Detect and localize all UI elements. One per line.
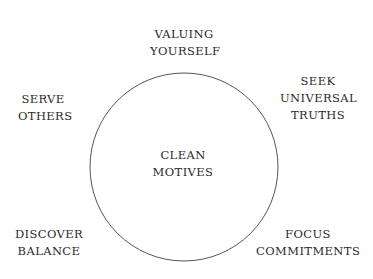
- node-focus-commitments: FOCUS COMMITMENTS: [256, 226, 360, 260]
- node-serve-others: SERVE OTHERS: [18, 91, 68, 125]
- node-label-line: YOURSELF: [150, 43, 218, 60]
- node-label-line: FOCUS: [256, 226, 360, 243]
- node-label-line: BALANCE: [14, 243, 84, 260]
- node-label-line: UNIVERSAL: [280, 90, 356, 107]
- center-label-line: MOTIVES: [148, 164, 218, 181]
- node-label-line: SERVE: [18, 91, 68, 108]
- node-label-line: SEEK: [280, 73, 356, 90]
- node-discover-balance: DISCOVER BALANCE: [14, 226, 84, 260]
- node-label-line: TRUTHS: [280, 107, 356, 124]
- node-valuing-yourself: VALUING YOURSELF: [150, 26, 218, 60]
- node-seek-universal-truths: SEEK UNIVERSAL TRUTHS: [280, 73, 356, 124]
- center-label-line: CLEAN: [148, 147, 218, 164]
- center-clean-motives: CLEAN MOTIVES: [148, 147, 218, 181]
- node-label-line: DISCOVER: [14, 226, 84, 243]
- node-label-line: VALUING: [150, 26, 218, 43]
- node-label-line: OTHERS: [18, 108, 68, 125]
- node-label-line: COMMITMENTS: [256, 243, 360, 260]
